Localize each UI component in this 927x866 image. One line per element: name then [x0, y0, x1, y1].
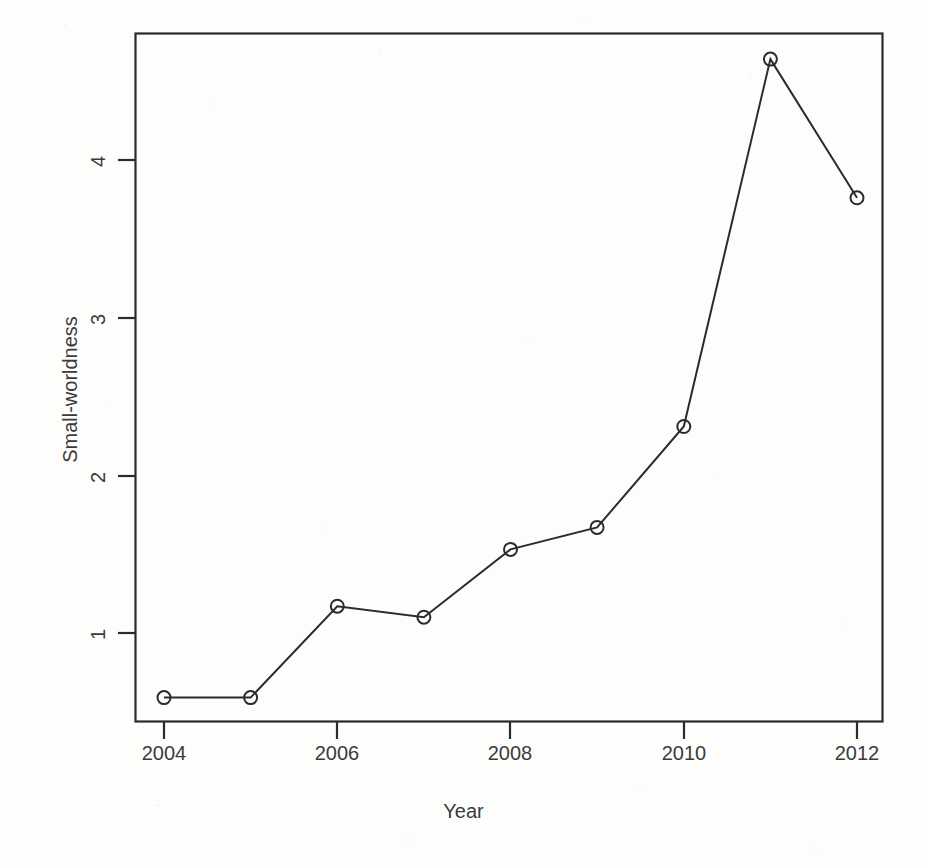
x-tick-label-2010: 2010 [644, 742, 724, 765]
chart-figure: 4 3 2 1 2004 2006 2008 2010 2012 Year Sm… [0, 0, 927, 866]
y-tick-label-4: 4 [87, 142, 110, 182]
y-tick-label-1: 1 [87, 615, 110, 655]
x-tick-label-2004: 2004 [124, 742, 204, 765]
y-axis-ticks [118, 160, 135, 633]
plot-frame [136, 34, 883, 722]
x-tick-label-2006: 2006 [297, 742, 377, 765]
data-point-markers [158, 53, 864, 705]
x-axis-title: Year [0, 800, 927, 823]
y-tick-label-3: 3 [87, 300, 110, 340]
y-axis-title: Small-worldness [59, 290, 82, 490]
y-tick-label-2: 2 [87, 458, 110, 498]
line-chart-plot [0, 0, 927, 866]
x-tick-label-2012: 2012 [817, 742, 897, 765]
data-series-line [164, 59, 857, 698]
x-tick-label-2008: 2008 [470, 742, 550, 765]
x-axis-ticks [164, 722, 857, 739]
